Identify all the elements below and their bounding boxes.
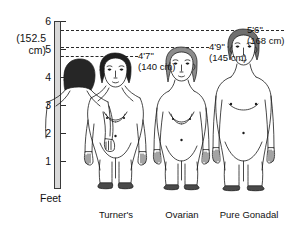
figure-turners-arm-right-inner — [137, 124, 139, 152]
figure-ovarian-chest — [169, 112, 194, 122]
height-callout-168cm-ft: 5'6" — [247, 24, 284, 35]
figure-ovarian-nipple-left — [172, 118, 174, 120]
figures-illustration — [0, 0, 289, 229]
figure-turners-leg-right-outer — [131, 160, 132, 183]
figure-pure-gonadal-foot-left — [223, 186, 240, 191]
figure-back-fingers — [106, 141, 111, 150]
height-callout-145cm-ft: 4'9" — [209, 41, 246, 52]
figure-back-side-left — [46, 102, 48, 138]
figure-turners-arm-right-outer — [143, 120, 146, 152]
figure-ovarian-foot-right — [184, 185, 199, 190]
figure-turners-webfold-left — [98, 88, 109, 101]
caption-pure-gonadal-line1: Pure Gonadal — [210, 209, 288, 221]
height-callout-140cm-cm: (140 cm) — [138, 61, 175, 72]
figure-pure-gonadal-nipple-right — [255, 103, 257, 105]
figure-ovarian-arm-right-outer — [206, 108, 209, 150]
height-comparison-figure: 6 5 4 3 2 1 (152.5 cm) Feet — [0, 0, 289, 229]
figure-ovarian-neck-left — [169, 80, 175, 91]
figure-ovarian-foot-left — [164, 185, 179, 190]
figure-ovarian-navel — [180, 139, 182, 141]
figure-ovarian-side-left — [157, 91, 169, 170]
figure-turners-arm-left-outer — [85, 120, 88, 152]
figure-ovarian-arm-left-outer — [154, 108, 157, 150]
figure-pure-gonadal-neck-left — [231, 64, 237, 77]
figure-turners-fingers-right — [141, 154, 145, 164]
figure-pure-gonadal-pelvis — [225, 142, 262, 161]
height-callout-140cm: 4'7" (140 cm) — [138, 50, 175, 72]
figure-ovarian-arm-left-inner — [160, 112, 163, 150]
figure-pure-gonadal-leg-right-outer — [262, 162, 263, 186]
figure-pure-gonadal-fingers-left — [214, 150, 218, 162]
caption-ovarian-line1: Ovarian — [149, 209, 215, 221]
figure-ovarian-neck-right — [188, 80, 194, 91]
figure-turners-side-left — [88, 98, 100, 170]
figure-ovarian-arm-right-inner — [200, 112, 203, 150]
figure-turners-nipple-left — [106, 117, 108, 119]
figure-turners-fingers-left — [86, 154, 90, 164]
figure-ovarian-pelvis — [166, 146, 197, 161]
figure-turners-leg-left-outer — [99, 160, 100, 183]
figure-turners-webfold-right — [122, 88, 133, 101]
figure-ovarian-fingers-right — [204, 152, 208, 163]
figure-back-fold-left — [56, 91, 70, 106]
height-callout-168cm: 5'6" (168 cm) — [247, 24, 284, 46]
figure-pure-gonadal-fingers-right — [269, 150, 273, 162]
figure-pure-gonadal-chest — [229, 104, 258, 110]
figure-pure-gonadal-nipple-left — [230, 103, 232, 105]
figure-turners-arm-left-inner — [92, 124, 94, 152]
caption-turners-line1: Turner's — [84, 209, 148, 221]
figure-ovarian-side-right — [194, 91, 206, 170]
caption-pure-gonadal-dysgenesis: Pure Gonadal Dysgenesis — [210, 197, 288, 229]
height-callout-140cm-ft: 4'7" — [138, 50, 175, 61]
figure-back-arm-inner — [103, 112, 105, 139]
figure-ovarian-leg-right-outer — [197, 162, 198, 185]
height-callout-145cm: 4'9" (145 cm) — [209, 41, 246, 63]
figure-ovarian-leg-left-outer — [165, 162, 166, 185]
figure-ovarian-fingers-left — [155, 152, 159, 163]
height-callout-145cm-cm: (145 cm) — [209, 52, 246, 63]
figure-ovarian-nipple-right — [189, 118, 191, 120]
height-callout-168cm-cm: (168 cm) — [247, 35, 284, 46]
figure-pure-gonadal-navel — [242, 132, 244, 134]
figure-turners-nipple-right — [123, 117, 125, 119]
figure-pure-gonadal-neck-right — [250, 64, 256, 77]
figure-turners-foot-right — [118, 183, 133, 189]
figure-turners-side-right — [131, 98, 143, 170]
figure-turners-foot-left — [98, 183, 113, 189]
caption-turners-syndrome: Turner's Syndrome — [84, 197, 148, 229]
caption-ovarian-dysgenesis: Ovarian Dysgenesis — [149, 197, 215, 229]
figure-pure-gonadal-leg-left-outer — [224, 162, 225, 186]
figure-turners-navel — [114, 135, 116, 137]
figure-pure-gonadal-foot-right — [247, 186, 264, 191]
figure-back-hair — [64, 59, 95, 90]
